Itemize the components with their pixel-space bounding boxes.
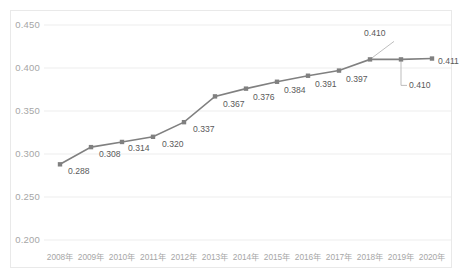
x-axis-tick-label: 2018年	[357, 250, 383, 262]
y-axis-tick-label: 0.450	[0, 19, 40, 30]
leader-lines	[370, 41, 407, 85]
y-axis-tick-label: 0.400	[0, 62, 40, 73]
data-point-marker	[120, 140, 124, 144]
data-point-marker	[244, 86, 248, 90]
data-point-label: 0.410	[409, 80, 431, 90]
data-point-label: 0.314	[128, 143, 150, 153]
data-point-marker	[430, 56, 434, 60]
data-point-marker	[182, 120, 186, 124]
x-axis-tick-label: 2010年	[109, 250, 135, 262]
data-point-marker	[275, 80, 279, 84]
data-point-label: 0.308	[99, 149, 121, 159]
data-point-marker	[337, 68, 341, 72]
data-point-label: 0.337	[193, 124, 215, 134]
x-axis-tick-label: 2019年	[388, 250, 414, 262]
data-point-marker	[213, 94, 217, 98]
data-point-marker	[151, 135, 155, 139]
y-axis-tick-label: 0.300	[0, 148, 40, 159]
label-leader-line	[370, 41, 394, 59]
data-point-marker	[306, 74, 310, 78]
data-point-marker	[368, 57, 372, 61]
chart-canvas	[0, 0, 462, 279]
data-point-label: 0.391	[315, 79, 337, 89]
x-axis-tick-label: 2015年	[264, 250, 290, 262]
gridlines	[44, 25, 451, 240]
label-leader-line	[401, 61, 407, 85]
data-point-label: 0.320	[162, 139, 184, 149]
data-point-marker	[58, 162, 62, 166]
data-point-label: 0.288	[68, 166, 90, 176]
data-point-marker	[89, 145, 93, 149]
data-point-label: 0.384	[284, 85, 306, 95]
x-axis-tick-label: 2012年	[171, 250, 197, 262]
y-axis-tick-label: 0.200	[0, 234, 40, 245]
data-point-marker	[399, 57, 403, 61]
x-axis-tick-label: 2009年	[78, 250, 104, 262]
data-point-label: 0.410	[364, 28, 386, 38]
data-point-label: 0.367	[223, 99, 245, 109]
x-axis-tick-label: 2014年	[233, 250, 259, 262]
x-axis-tick-label: 2013年	[202, 250, 228, 262]
x-axis-tick-label: 2011年	[140, 250, 166, 262]
data-point-label: 0.411	[438, 56, 459, 66]
y-axis-tick-label: 0.250	[0, 191, 40, 202]
data-point-label: 0.376	[253, 92, 275, 102]
x-axis-tick-label: 2017年	[326, 250, 352, 262]
data-point-label: 0.397	[346, 74, 368, 84]
line-chart: 0.2000.2500.3000.3500.4000.450 2008年2009…	[0, 0, 462, 279]
y-axis-tick-label: 0.350	[0, 105, 40, 116]
x-axis-tick-label: 2020年	[419, 250, 445, 262]
x-axis-tick-label: 2008年	[47, 250, 73, 262]
x-axis-tick-label: 2016年	[295, 250, 321, 262]
